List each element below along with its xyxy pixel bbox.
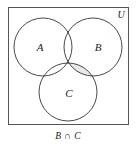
universal-set-rectangle (9, 8, 129, 125)
figure-caption: B ∩ C (55, 131, 81, 141)
set-label-b: B (95, 41, 102, 53)
venn-diagram-canvas: A B C U B ∩ C (0, 0, 137, 147)
set-label-a: A (36, 41, 44, 53)
venn-diagram-figure: A B C U B ∩ C (0, 0, 137, 147)
set-label-c: C (65, 87, 73, 99)
universal-set-label: U (117, 9, 125, 20)
